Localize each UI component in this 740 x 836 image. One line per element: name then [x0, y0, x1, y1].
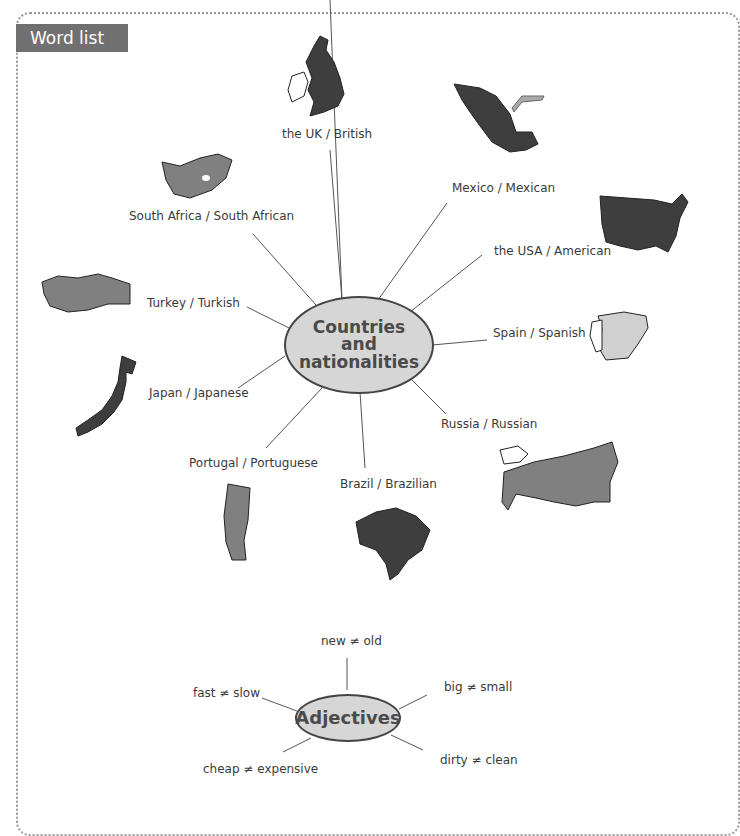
portugal-map-icon: [214, 480, 258, 566]
south-africa-map-icon: [160, 152, 240, 202]
label-japan: Japan / Japanese: [149, 386, 249, 400]
label-mexico: Mexico / Mexican: [452, 181, 555, 195]
spain-map-icon: [584, 306, 658, 368]
label-dirty-clean: dirty ≠ clean: [440, 753, 518, 767]
mexico-map-icon: [452, 72, 550, 172]
label-cheap-expensive: cheap ≠ expensive: [203, 762, 318, 776]
uk-map-icon: [284, 32, 354, 122]
adjectives-hub: Adjectives: [295, 694, 401, 742]
adjectives-hub-label: Adjectives: [295, 709, 400, 727]
label-uk: the UK / British: [282, 127, 372, 141]
label-new-old: new ≠ old: [321, 634, 382, 648]
countries-hub: Countries and nationalities: [284, 296, 434, 394]
label-brazil: Brazil / Brazilian: [340, 477, 437, 491]
brazil-map-icon: [346, 502, 434, 586]
label-usa: the USA / American: [494, 244, 611, 258]
label-spain: Spain / Spanish: [493, 326, 586, 340]
hub-line-3: nationalities: [299, 354, 419, 371]
label-russia: Russia / Russian: [441, 417, 537, 431]
label-portugal: Portugal / Portuguese: [189, 456, 318, 470]
label-big-small: big ≠ small: [444, 680, 512, 694]
russia-map-icon: [494, 432, 628, 520]
label-south-africa: South Africa / South African: [129, 209, 294, 223]
label-fast-slow: fast ≠ slow: [193, 686, 260, 700]
japan-map-icon: [72, 352, 148, 448]
turkey-map-icon: [38, 262, 134, 324]
label-turkey: Turkey / Turkish: [147, 296, 240, 310]
usa-map-icon: [598, 188, 694, 264]
